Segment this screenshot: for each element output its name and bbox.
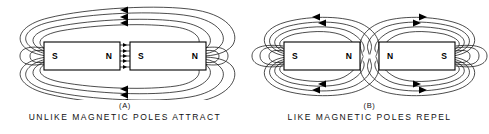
caption-a: (A) UNLIKE MAGNETIC POLES ATTRACT — [0, 101, 250, 123]
pole-label-a-left-south: S — [52, 51, 58, 61]
field-arrows-bottom-a — [120, 86, 128, 101]
arrow-right-icon — [419, 14, 427, 21]
arrow-right-icon — [419, 87, 427, 94]
panel-like-poles: S N N S (B) LIKE MAGNETIC POLES REPEL — [250, 0, 489, 134]
caption-a-text: UNLIKE MAGNETIC POLES ATTRACT — [0, 111, 250, 123]
pole-label-b-left-north: N — [346, 51, 352, 61]
gap-field-lines-a — [120, 43, 130, 69]
field-arrows-top-a — [120, 7, 128, 27]
panel-b-diagram: S N N S — [250, 0, 489, 100]
arrow-left-icon — [120, 86, 128, 93]
caption-a-key: (A) — [0, 101, 250, 111]
arrow-left-icon — [312, 14, 320, 21]
arrow-left-icon — [120, 92, 128, 99]
arrow-right-icon — [413, 20, 421, 27]
pole-label-a-left-north: N — [106, 51, 112, 61]
pole-label-b-left-south: S — [292, 51, 298, 61]
arrow-right-icon — [123, 59, 127, 63]
pole-label-b-right-north: N — [387, 51, 393, 61]
pole-label-a-right-north: N — [192, 51, 198, 61]
panel-unlike-poles: S N S N (A) UNLIKE MAGNETIC POLE — [0, 0, 250, 134]
arrow-left-icon — [120, 7, 128, 14]
panel-a-diagram: S N S N — [0, 0, 250, 100]
magnetism-figure: S N S N (A) UNLIKE MAGNETIC POLE — [0, 0, 489, 134]
arrow-left-icon — [318, 20, 326, 27]
pole-label-a-right-south: S — [138, 51, 144, 61]
caption-b-text: LIKE MAGNETIC POLES REPEL — [250, 111, 489, 123]
caption-b: (B) LIKE MAGNETIC POLES REPEL — [250, 101, 489, 123]
arrow-right-icon — [123, 54, 127, 58]
pole-label-b-right-south: S — [441, 51, 447, 61]
caption-b-key: (B) — [250, 101, 489, 111]
arrow-right-icon — [123, 65, 127, 69]
arrow-right-icon — [123, 43, 127, 47]
arrow-right-icon — [123, 49, 127, 53]
arrow-left-icon — [120, 20, 128, 27]
arrow-left-icon — [312, 87, 320, 94]
